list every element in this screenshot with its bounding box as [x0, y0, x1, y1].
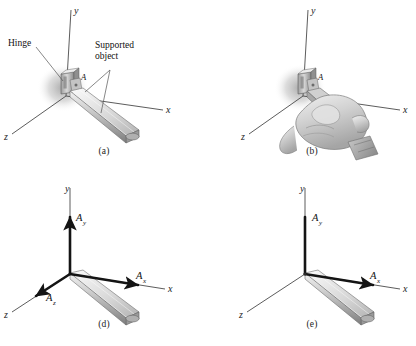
reaction-label-ay-sub: y — [318, 219, 323, 227]
axis-label-x: x — [402, 283, 408, 294]
reaction-label-ax-sub: x — [142, 277, 147, 285]
supported-object-callout-line1: Supported — [95, 40, 134, 50]
supported-object-callout-line2: object — [95, 51, 119, 61]
reaction-vector-az — [36, 274, 70, 296]
panel-a: Hinge Supported object y x z A (a) — [0, 0, 208, 173]
reaction-label-ax-sub: x — [376, 277, 381, 285]
reaction-label-ax: A x — [135, 270, 147, 285]
reaction-label-ay-base: A — [75, 212, 83, 223]
reaction-label-ay: A y — [75, 212, 87, 227]
reaction-label-ax-base: A — [135, 270, 143, 281]
panel-e-caption: (e) — [208, 319, 416, 329]
panel-e: y x z A y A x (e) — [208, 173, 416, 346]
reaction-label-ax: A x — [369, 270, 381, 285]
panel-b-caption: (b) — [208, 146, 416, 156]
supported-object-bar — [305, 270, 374, 325]
figure-sheet: Hinge Supported object y x z A (a) — [0, 0, 416, 346]
supported-object-bar — [70, 270, 139, 325]
axis-label-y: y — [299, 183, 305, 194]
axis-label-x: x — [167, 283, 173, 294]
axis-label-x: x — [165, 104, 171, 115]
axis-z-line — [247, 274, 305, 312]
reaction-label-az: A z — [45, 292, 56, 307]
point-label-a: A — [317, 72, 324, 82]
panel-d-caption: (d) — [0, 319, 208, 329]
axis-label-x: x — [402, 104, 408, 115]
axis-label-y: y — [64, 183, 70, 194]
axis-label-y: y — [73, 5, 79, 16]
reaction-label-ay-base: A — [311, 212, 319, 223]
point-label-a: A — [80, 72, 87, 82]
axis-z-line — [249, 96, 303, 134]
reaction-label-az-sub: z — [52, 299, 56, 307]
hinge-callout-label: Hinge — [8, 38, 31, 48]
reaction-label-az-base: A — [45, 292, 53, 303]
axis-label-y: y — [310, 5, 316, 16]
panel-a-caption: (a) — [0, 146, 208, 156]
axis-label-z: z — [240, 131, 245, 142]
origin-point — [303, 272, 306, 275]
reaction-label-ax-base: A — [369, 270, 377, 281]
axis-label-z: z — [3, 131, 8, 142]
panel-d: y x z A y A x A z (d) — [0, 173, 208, 346]
panel-b: y x z A (b) — [208, 0, 416, 173]
reaction-label-ay-sub: y — [82, 219, 87, 227]
reaction-label-ay: A y — [311, 212, 323, 227]
axis-z-line — [12, 96, 66, 134]
